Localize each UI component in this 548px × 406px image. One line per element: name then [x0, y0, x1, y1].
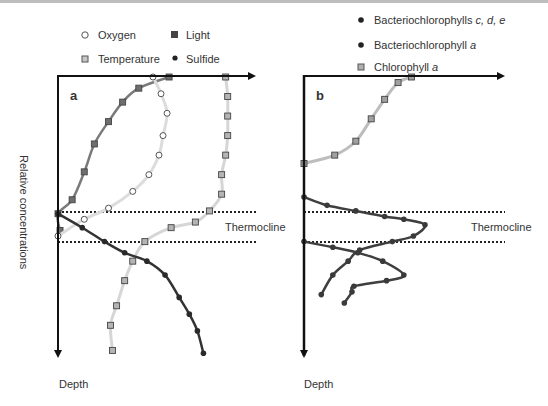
temperature-point-8: [192, 219, 198, 225]
bacteriochlorophyll-a-point-5: [384, 278, 390, 284]
light-point-2: [120, 99, 126, 105]
chlorophyll-a-point-5: [395, 80, 401, 86]
legend-bchl-a-marker: [358, 42, 364, 48]
oxygen-point-4: [156, 152, 162, 158]
panel-a-label: a: [70, 88, 78, 103]
legend-bchl-cde-marker: [358, 17, 364, 23]
temperature-point-4: [223, 152, 229, 158]
legend-a: Oxygen Light Temperature Sulfide: [82, 29, 220, 65]
sulfide-point-7: [187, 311, 193, 317]
light-point-4: [91, 141, 97, 147]
legend-temperature-marker: [82, 56, 88, 62]
sulfide-point-9: [201, 350, 207, 356]
oxygen-point-1: [158, 91, 164, 97]
temperature-point-15: [110, 347, 116, 353]
sulfide-line: [58, 214, 203, 353]
light-point-6: [69, 197, 75, 203]
temperature-point-3: [225, 133, 231, 139]
temperature-point-7: [207, 208, 213, 214]
sulfide-point-1: [79, 225, 85, 231]
figure: Oxygen Light Temperature Sulfide Bacteri…: [0, 0, 548, 406]
sulfide-point-6: [176, 295, 182, 301]
panel-b-label: b: [316, 88, 324, 103]
bacteriochlorophylls-c-d-e-point-9: [345, 258, 351, 264]
temperature-point-14: [108, 322, 114, 328]
legend-bchl-a-label: Bacteriochlorophyll a: [374, 39, 476, 51]
temperature-point-9: [168, 225, 174, 231]
bacteriochlorophyll-a-point-1: [330, 244, 336, 250]
legend-b: Bacteriochlorophylls c, d, e Bacteriochl…: [358, 14, 505, 73]
bacteriochlorophylls-c-d-e-point-4: [401, 216, 407, 222]
temperature-point-2: [225, 113, 231, 119]
sulfide-point-5: [162, 272, 168, 278]
bacteriochlorophylls-c-d-e-point-2: [353, 208, 359, 214]
sulfide-point-8: [195, 328, 201, 334]
legend-light-marker: [171, 31, 178, 38]
light-point-3: [106, 119, 112, 125]
oxygen-point-6: [130, 188, 136, 194]
bacteriochlorophyll-a-point-2: [355, 250, 361, 256]
temperature-point-11: [130, 258, 136, 264]
oxygen-point-7: [106, 205, 112, 211]
legend-oxygen-label: Oxygen: [98, 29, 136, 41]
legend-chl-a-marker: [358, 64, 364, 70]
chlorophyll-a-point-3: [368, 116, 374, 122]
legend-sulfide-marker: [172, 55, 177, 60]
bacteriochlorophylls-c-d-e-point-1: [324, 203, 330, 209]
legend-light-label: Light: [186, 29, 210, 41]
sulfide-point-2: [102, 239, 108, 245]
temperature-point-6: [219, 191, 225, 197]
bacteriochlorophylls-c-d-e-point-11: [318, 292, 324, 298]
light-point-5: [81, 169, 87, 175]
temperature-point-12: [122, 278, 128, 284]
oxygen-point-5: [146, 172, 152, 178]
depth-label-b: Depth: [304, 378, 333, 390]
bacteriochlorophylls-c-d-e-point-6: [411, 233, 417, 239]
bacteriochlorophylls-c-d-e-point-5: [422, 222, 428, 228]
sulfide-point-4: [144, 258, 150, 264]
legend-oxygen-marker: [82, 32, 88, 38]
temperature-point-5: [219, 172, 225, 178]
temperature-point-1: [225, 94, 231, 100]
bacteriochlorophyll-a-point-8: [342, 300, 348, 306]
chlorophyll-a-point-4: [382, 96, 388, 102]
bacteriochlorophyll-a-point-4: [401, 272, 407, 278]
panel-a-series: [55, 74, 231, 356]
sulfide-point-3: [122, 250, 128, 256]
bacteriochlorophylls-c-d-e-point-7: [390, 239, 396, 245]
oxygen-point-8: [81, 216, 87, 222]
bacteriochlorophylls-c-d-e-point-3: [382, 214, 388, 220]
legend-sulfide-label: Sulfide: [186, 53, 220, 65]
legend-chl-a-label: Chlorophyll a: [374, 61, 438, 73]
thermocline-label-a: Thermocline: [225, 221, 286, 233]
y-axis-label: Relative concentrations: [18, 155, 30, 270]
bacteriochlorophyll-a-point-3: [380, 258, 386, 264]
oxygen-point-3: [160, 133, 166, 139]
light-point-1: [136, 85, 142, 91]
panel-b-series: [301, 74, 428, 306]
legend-temperature-label: Temperature: [98, 53, 160, 65]
legend-bchl-cde-label: Bacteriochlorophylls c, d, e: [374, 14, 505, 26]
bacteriochlorophyll-a-point-7: [349, 289, 355, 295]
chlorophyll-a-point-2: [353, 138, 359, 144]
chlorophyll-a-point-1: [332, 152, 338, 158]
thermocline-label-b: Thermocline: [471, 221, 532, 233]
depth-label-a: Depth: [59, 378, 88, 390]
temperature-point-10: [142, 239, 148, 245]
oxygen-point-2: [164, 110, 170, 116]
bacteriochlorophylls-c-d-e-point-10: [330, 272, 336, 278]
bacteriochlorophyll-a-point-6: [351, 283, 357, 289]
temperature-point-13: [114, 303, 120, 309]
